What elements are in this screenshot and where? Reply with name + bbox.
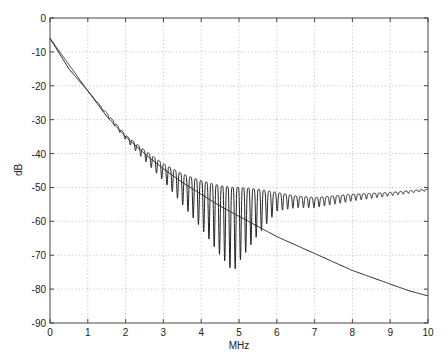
y-tick-label: -30	[32, 115, 47, 126]
x-tick-label: 5	[236, 327, 242, 338]
x-tick-label: 8	[350, 327, 356, 338]
y-tick-label: -90	[32, 318, 47, 329]
x-tick-label: 9	[387, 327, 393, 338]
y-tick-label: -80	[32, 284, 47, 295]
x-tick-label: 3	[161, 327, 167, 338]
x-tick-labels: 012345678910	[47, 327, 434, 338]
x-axis-label: MHz	[229, 340, 250, 351]
x-tick-label: 2	[123, 327, 129, 338]
y-tick-label: -50	[32, 182, 47, 193]
x-tick-label: 10	[422, 327, 434, 338]
y-tick-label: -40	[32, 149, 47, 160]
series-smooth-rolloff	[50, 38, 428, 296]
y-tick-label: -20	[32, 81, 47, 92]
y-tick-labels: 0-10-20-30-40-50-60-70-80-90	[32, 13, 47, 329]
x-tick-label: 4	[198, 327, 204, 338]
y-tick-label: -70	[32, 250, 47, 261]
x-tick-label: 1	[85, 327, 91, 338]
y-axis-label: dB	[13, 164, 24, 177]
x-tick-label: 7	[312, 327, 318, 338]
x-tick-label: 0	[47, 327, 53, 338]
y-tick-label: -10	[32, 47, 47, 58]
y-tick-label: -60	[32, 216, 47, 227]
plot-series	[50, 38, 428, 296]
chart: 012345678910 0-10-20-30-40-50-60-70-80-9…	[0, 0, 448, 359]
x-tick-label: 6	[274, 327, 280, 338]
y-tick-label: 0	[40, 13, 46, 24]
